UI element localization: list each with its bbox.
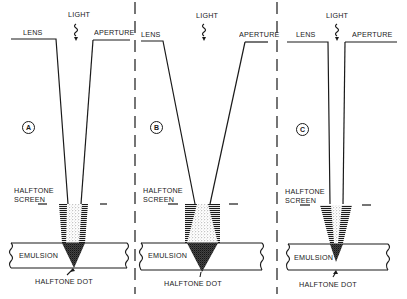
panel-badge-b: B bbox=[150, 121, 163, 134]
halftone-screen-b bbox=[168, 204, 238, 243]
aperture-label-a: APERTURE bbox=[94, 29, 135, 37]
panel-c bbox=[287, 24, 397, 204]
diagram-canvas bbox=[0, 0, 407, 299]
lens-label-c: LENS bbox=[296, 31, 316, 39]
lens-label-a: LENS bbox=[23, 29, 43, 37]
aperture-label-c: APERTURE bbox=[352, 31, 393, 39]
halftone-screen-label-b-line2: SCREEN bbox=[143, 196, 174, 204]
halftone-screen-label-c-line2: SCREEN bbox=[285, 197, 316, 205]
light-label-c: LIGHT bbox=[326, 12, 348, 20]
lens-label-b: LENS bbox=[141, 31, 161, 39]
panel-b bbox=[141, 24, 268, 204]
emulsion-label-c: EMULSION bbox=[294, 254, 333, 262]
light-label-b: LIGHT bbox=[196, 12, 218, 20]
halftone-dot-label-c: HALFTONE DOT bbox=[299, 281, 357, 289]
emulsion-label-b: EMULSION bbox=[148, 252, 187, 260]
light-label-a: LIGHT bbox=[68, 11, 90, 19]
panel-badge-a: A bbox=[22, 121, 35, 134]
halftone-screen-a bbox=[38, 204, 107, 243]
halftone-screen-c bbox=[300, 205, 371, 243]
halftone-diagram: LIGHT LENS APERTURE A HALFTONE SCREEN EM… bbox=[0, 0, 407, 299]
panel-a bbox=[11, 24, 130, 204]
halftone-dot-label-b: HALFTONE DOT bbox=[164, 280, 222, 288]
emulsion-label-a: EMULSION bbox=[19, 252, 58, 260]
panel-badge-c: C bbox=[296, 123, 309, 136]
halftone-screen-label-a-line2: SCREEN bbox=[14, 196, 45, 204]
aperture-label-b: APERTURE bbox=[239, 31, 280, 39]
halftone-dot-label-a: HALFTONE DOT bbox=[35, 278, 93, 286]
